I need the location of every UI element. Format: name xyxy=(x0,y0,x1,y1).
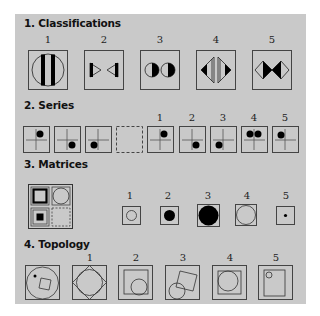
matrix-option-2[interactable] xyxy=(160,206,179,225)
matrix-option-5[interactable] xyxy=(276,206,295,225)
section-title-series: 2. Series xyxy=(24,99,74,111)
option-label: 4 xyxy=(220,252,240,263)
option-label: 3 xyxy=(213,112,233,123)
matrix-grid xyxy=(28,184,73,229)
topology-reference xyxy=(25,265,61,301)
topology-option-1[interactable] xyxy=(72,265,108,301)
option-label: 2 xyxy=(158,190,178,201)
option-label: 1 xyxy=(120,190,140,201)
series-cell-3 xyxy=(85,126,112,153)
section-title-matrices: 3. Matrices xyxy=(24,158,88,170)
option-label: 2 xyxy=(182,112,202,123)
option-label: 4 xyxy=(237,190,257,201)
option-label: 3 xyxy=(150,34,170,45)
option-label: 2 xyxy=(126,252,146,263)
option-label: 5 xyxy=(262,34,282,45)
series-option-1[interactable] xyxy=(147,126,174,153)
series-option-3[interactable] xyxy=(210,126,237,153)
option-label: 3 xyxy=(198,190,218,201)
classification-option-4[interactable] xyxy=(196,50,236,90)
classification-option-5[interactable] xyxy=(252,50,292,90)
option-label: 1 xyxy=(150,112,170,123)
classification-option-3[interactable] xyxy=(140,50,180,90)
topology-option-4[interactable] xyxy=(212,265,248,301)
matrix-option-1[interactable] xyxy=(122,206,141,225)
series-cell-1 xyxy=(23,126,50,153)
option-label: 2 xyxy=(94,34,114,45)
series-cell-2 xyxy=(54,126,81,153)
classification-option-1[interactable] xyxy=(28,50,68,90)
option-label: 5 xyxy=(275,112,295,123)
option-label: 3 xyxy=(173,252,193,263)
option-label: 5 xyxy=(266,252,286,263)
section-title-classifications: 1. Classifications xyxy=(24,17,121,29)
option-label: 4 xyxy=(206,34,226,45)
series-option-2[interactable] xyxy=(179,126,206,153)
option-label: 1 xyxy=(80,252,100,263)
series-option-5[interactable] xyxy=(272,126,299,153)
classification-option-2[interactable] xyxy=(84,50,124,90)
option-label: 1 xyxy=(38,34,58,45)
topology-option-5[interactable] xyxy=(258,265,294,301)
option-label: 5 xyxy=(276,190,296,201)
topology-option-3[interactable] xyxy=(165,265,201,301)
section-title-topology: 4. Topology xyxy=(24,238,90,250)
topology-option-2[interactable] xyxy=(118,265,154,301)
series-option-4[interactable] xyxy=(241,126,268,153)
option-label: 4 xyxy=(244,112,264,123)
matrix-option-4[interactable] xyxy=(235,204,257,226)
matrix-option-3[interactable] xyxy=(197,204,220,227)
series-cell-blank xyxy=(116,126,143,153)
